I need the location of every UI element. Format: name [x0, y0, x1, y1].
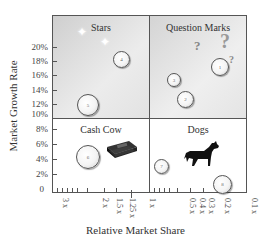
y-tick	[52, 47, 57, 48]
question-mark-icon: ?	[220, 30, 230, 53]
x-tick	[104, 188, 105, 193]
y-tick-label: 16%	[32, 70, 49, 80]
y-tick-label: 18%	[32, 56, 49, 66]
y-tick	[52, 61, 57, 62]
x-tick	[62, 188, 63, 193]
x-tick	[57, 188, 58, 193]
x-tick	[154, 188, 155, 193]
star-icon: ✦	[100, 35, 110, 50]
x-tick-label: 1.5 x	[115, 198, 124, 214]
x-tick	[169, 188, 170, 193]
y-tick-label: 8%	[36, 124, 48, 134]
x-tick	[159, 188, 160, 193]
quadrant-stars: Stars ✦ ✦ 4 5	[53, 16, 150, 119]
x-tick-label: 0.1 x	[250, 198, 259, 214]
y-tick	[52, 159, 57, 160]
quadrant-dogs: Dogs 7 8	[150, 119, 246, 192]
x-tick	[67, 188, 68, 193]
y-tick	[52, 90, 57, 91]
y-tick	[52, 174, 57, 175]
x-tick-label: 0.2 x	[223, 198, 232, 214]
star-icon: ✦	[77, 25, 87, 40]
x-axis-title: Relative Market Share	[0, 224, 271, 236]
bubble-5: 5	[77, 94, 99, 116]
bubble-7: 7	[154, 159, 169, 174]
bubble-4: 4	[113, 51, 130, 68]
x-tick-label: 0.5 x	[188, 198, 197, 214]
quadrant-cash-cow: Cash Cow 6	[53, 119, 150, 192]
y-axis-title: Market Growth Rate	[7, 60, 19, 151]
y-tick-label: 2%	[36, 169, 48, 179]
y-tick	[52, 104, 57, 105]
money-stack-icon	[105, 139, 139, 161]
y-tick	[52, 144, 57, 145]
quadrant-label-dogs: Dogs	[150, 124, 246, 135]
y-tick	[52, 75, 57, 76]
y-tick-label: 6%	[36, 139, 48, 149]
x-tick-label: 1.25 x	[128, 198, 137, 218]
x-tick	[87, 188, 88, 193]
x-tick	[116, 188, 117, 193]
quadrant-label-cash-cow: Cash Cow	[53, 124, 149, 135]
x-tick	[131, 190, 132, 198]
x-tick	[177, 188, 178, 193]
matrix-frame: Stars ✦ ✦ 4 5 Question Marks ? ? ? 1 3 2…	[52, 15, 247, 193]
bubble-1: 1	[211, 58, 229, 76]
x-tick-label: 0.3 x	[207, 198, 216, 214]
quadrant-label-stars: Stars	[53, 22, 149, 33]
bubble-8: 8	[213, 175, 232, 194]
x-tick-label: 2 x	[101, 198, 110, 208]
bubble-2: 2	[177, 91, 194, 108]
y-tick-label: 10%	[32, 109, 49, 119]
y-tick-label: 14%	[32, 85, 49, 95]
y-tick-label: 12%	[32, 99, 49, 109]
bubble-3: 3	[167, 73, 181, 87]
x-tick	[164, 188, 165, 193]
quadrant-question-marks: Question Marks ? ? ? 1 3 2	[150, 16, 246, 119]
x-tick	[72, 188, 73, 193]
y-tick-label: 20%	[32, 42, 49, 52]
y-tick	[52, 129, 57, 130]
x-tick-label: 3 x	[61, 198, 70, 208]
x-tick	[190, 188, 191, 193]
x-tick	[203, 188, 204, 193]
question-mark-icon: ?	[229, 54, 234, 65]
bubble-6: 6	[76, 145, 100, 169]
question-mark-icon: ?	[194, 38, 201, 54]
x-tick	[77, 188, 78, 193]
x-tick-label: 0.4 x	[198, 198, 207, 214]
quadrant-label-question-marks: Question Marks	[150, 22, 246, 33]
x-tick-label: 1 x	[148, 198, 157, 208]
y-tick-label: 4%	[36, 154, 48, 164]
y-tick-label: 0	[40, 184, 45, 194]
dog-icon	[184, 141, 220, 169]
